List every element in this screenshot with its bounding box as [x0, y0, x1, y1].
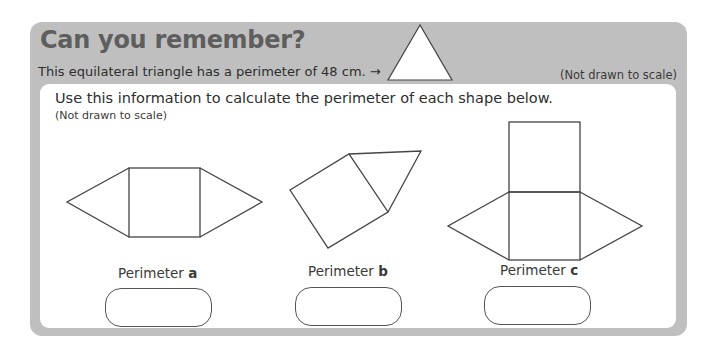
perimeter-a-label: Perimeter a [118, 265, 197, 281]
shape-b [290, 151, 421, 248]
perimeter-b-label: Perimeter b [308, 263, 388, 279]
perimeter-a-answer-box[interactable] [105, 288, 212, 327]
perimeter-b-answer-box[interactable] [295, 287, 402, 326]
equilateral-triangle-icon [388, 25, 452, 80]
shape-c [448, 122, 642, 260]
perimeter-c-label: Perimeter c [500, 262, 578, 278]
perimeter-c-answer-box[interactable] [484, 286, 591, 325]
shape-a [67, 168, 262, 237]
